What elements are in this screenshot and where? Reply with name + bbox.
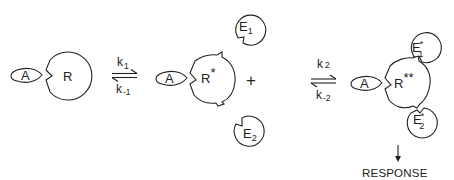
equilibrium-arrows-1: k1 k-1 — [112, 55, 137, 97]
stage1-complex: A R — [11, 52, 92, 100]
rate-k1: k1 — [117, 55, 129, 71]
equilibrium-arrows-2: k2 k-2 — [311, 57, 336, 103]
plus-sign: + — [246, 71, 256, 90]
rate-k-minus2: k-2 — [316, 88, 331, 103]
agonist-a-label: A — [360, 76, 369, 91]
diagram-canvas: A R k1 k-1 A R* + E1 E2 — [0, 0, 454, 180]
receptor-r-label: R — [63, 69, 72, 84]
response-label: RESPONSE — [362, 167, 428, 179]
agonist-a-label: A — [21, 68, 30, 83]
reaction-diagram: A R k1 k-1 A R* + E1 E2 — [0, 0, 454, 180]
agonist-a-label: A — [165, 71, 174, 86]
rate-k-minus1: k-1 — [116, 82, 131, 97]
response-arrow-icon — [395, 145, 401, 162]
stage2-complex: A R* + E1 E2 — [156, 15, 266, 146]
stage3-complex: A R** E*1 E*2 RESPONSE — [351, 33, 441, 179]
rate-k2: k2 — [317, 57, 330, 71]
